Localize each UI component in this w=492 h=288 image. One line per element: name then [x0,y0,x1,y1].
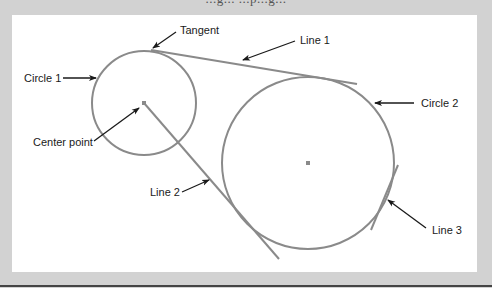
circle1-label: Circle 1 [24,72,61,84]
line3-arrow-icon [388,200,426,228]
center-point-2[interactable] [306,161,310,165]
center-point-arrow-icon [94,108,139,141]
line-2[interactable] [144,103,279,259]
tangent-arrow-icon [153,32,176,48]
center-point-label: Center point [33,136,93,148]
circle2-label: Circle 2 [421,97,458,109]
center-point-1[interactable] [142,101,146,105]
line-3[interactable] [371,165,398,230]
bottom-rule [0,285,492,287]
line1-arrow-icon [243,41,295,60]
line1-label: Line 1 [300,34,330,46]
line3-label: Line 3 [432,224,462,236]
line2-label: Line 2 [150,186,180,198]
line2-arrow-icon [182,180,209,192]
tangent-label: Tangent [180,24,219,36]
